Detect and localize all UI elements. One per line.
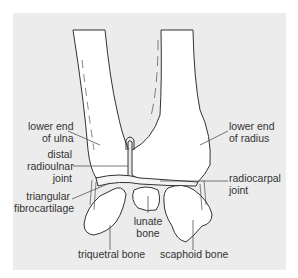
label-line: lower end xyxy=(28,120,74,132)
label-line: bone xyxy=(131,227,165,239)
label-radiocarpal-joint: radiocarpal joint xyxy=(229,172,281,196)
label-line: joint xyxy=(229,184,281,196)
label-line: joint xyxy=(27,172,72,184)
label-line: radioulnar xyxy=(27,160,72,172)
ulna-bone xyxy=(73,30,128,179)
label-line: radiocarpal xyxy=(229,172,281,184)
label-line: triangular xyxy=(14,190,70,202)
label-lower-end-of-ulna: lower end of ulna xyxy=(28,120,74,144)
label-line: lower end xyxy=(229,120,275,132)
label-triangular-fibrocartilage: triangular fibrocartilage xyxy=(14,190,70,214)
triquetral-bone-shape xyxy=(84,188,126,235)
label-line: distal xyxy=(27,148,72,160)
label-line: lunate xyxy=(131,215,165,227)
label-distal-radioulnar-joint: distal radioulnar joint xyxy=(27,148,72,184)
label-triquetral-bone: triquetral bone xyxy=(78,248,145,260)
label-line: fibrocartilage xyxy=(14,202,70,214)
lunate-bone-shape xyxy=(133,187,160,211)
label-lower-end-of-radius: lower end of radius xyxy=(229,120,275,144)
label-line: scaphoid bone xyxy=(160,248,228,260)
label-scaphoid-bone: scaphoid bone xyxy=(160,248,228,260)
radius-bone xyxy=(132,30,210,186)
label-lunate-bone: lunate bone xyxy=(131,215,165,239)
label-line: of ulna xyxy=(28,132,74,144)
label-line: of radius xyxy=(229,132,275,144)
scaphoid-bone-shape xyxy=(164,185,212,242)
label-line: triquetral bone xyxy=(78,248,145,260)
